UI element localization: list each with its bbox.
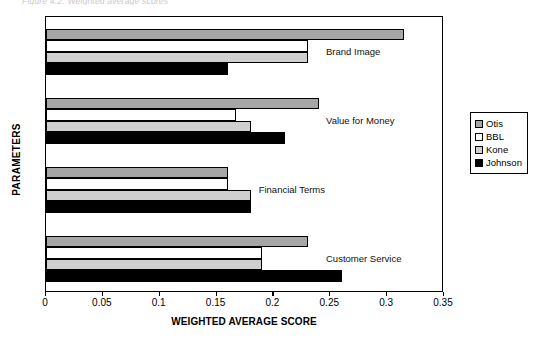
legend-swatch-johnson-icon	[475, 159, 483, 167]
legend-item-kone[interactable]: Kone	[475, 143, 522, 156]
category-label-customer-service: Customer Service	[326, 254, 402, 264]
bar-johnson-customer-service	[46, 270, 342, 282]
category-label-value-for-money: Value for Money	[326, 116, 394, 126]
x-tick-mark-2	[159, 292, 160, 296]
plot-bars-container: Brand ImageValue for MoneyFinancial Term…	[46, 17, 442, 291]
bar-otis-value-for-money	[46, 98, 319, 110]
legend-swatch-bbl-icon	[475, 133, 483, 141]
bar-bbl-value-for-money	[46, 109, 236, 121]
bar-chart-figure: Brand ImageValue for MoneyFinancial Term…	[0, 0, 549, 344]
legend-item-bbl[interactable]: BBL	[475, 130, 522, 143]
bar-kone-value-for-money	[46, 121, 251, 133]
x-tick-label-4: 0.2	[265, 297, 279, 308]
x-tick-mark-0	[45, 292, 46, 296]
bar-kone-financial-terms	[46, 190, 251, 202]
x-tick-label-7: 0.35	[433, 297, 452, 308]
bar-johnson-financial-terms	[46, 201, 251, 213]
category-label-brand-image: Brand Image	[326, 47, 380, 57]
legend-label: Johnson	[486, 158, 522, 168]
legend-swatch-kone-icon	[475, 146, 483, 154]
bar-johnson-brand-image	[46, 63, 228, 75]
chart-legend: OtisBBLKoneJohnson	[470, 112, 528, 174]
x-tick-label-3: 0.15	[206, 297, 225, 308]
x-tick-mark-4	[272, 292, 273, 296]
x-tick-mark-5	[329, 292, 330, 296]
x-tick-mark-7	[443, 292, 444, 296]
x-tick-mark-6	[386, 292, 387, 296]
bar-otis-brand-image	[46, 29, 404, 41]
bar-otis-financial-terms	[46, 167, 228, 179]
x-tick-label-2: 0.1	[152, 297, 166, 308]
legend-label: BBL	[486, 132, 504, 142]
bar-bbl-financial-terms	[46, 178, 228, 190]
x-tick-mark-3	[216, 292, 217, 296]
legend-item-otis[interactable]: Otis	[475, 117, 522, 130]
x-axis-title: WEIGHTED AVERAGE SCORE	[45, 316, 443, 327]
x-tick-label-0: 0	[42, 297, 48, 308]
bar-bbl-brand-image	[46, 40, 308, 52]
plot-area: Brand ImageValue for MoneyFinancial Term…	[45, 16, 443, 292]
legend-label: Kone	[486, 145, 508, 155]
bar-johnson-value-for-money	[46, 132, 285, 144]
x-tick-label-1: 0.05	[92, 297, 111, 308]
bar-kone-brand-image	[46, 52, 308, 64]
x-tick-mark-1	[102, 292, 103, 296]
legend-item-johnson[interactable]: Johnson	[475, 156, 522, 169]
legend-swatch-otis-icon	[475, 120, 483, 128]
bar-bbl-customer-service	[46, 247, 262, 259]
y-axis-title: PARAMETERS	[11, 100, 22, 220]
bar-kone-customer-service	[46, 259, 262, 271]
bar-otis-customer-service	[46, 236, 308, 248]
category-label-financial-terms: Financial Terms	[259, 185, 325, 195]
x-tick-label-5: 0.25	[320, 297, 339, 308]
legend-label: Otis	[486, 119, 503, 129]
x-tick-label-6: 0.3	[379, 297, 393, 308]
